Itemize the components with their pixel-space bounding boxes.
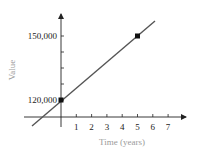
y-axis-title: Value bbox=[7, 60, 17, 81]
x-tick-label-7: 7 bbox=[166, 122, 171, 132]
x-tick-label-1: 1 bbox=[74, 122, 79, 132]
x-tick-label-2: 2 bbox=[89, 122, 94, 132]
data-point-year-0 bbox=[59, 98, 64, 103]
line-chart: 120,000 150,000 1 2 3 4 5 6 7 Time (year… bbox=[0, 0, 199, 154]
data-point-year-5 bbox=[135, 34, 140, 39]
x-tick-label-4: 4 bbox=[120, 122, 125, 132]
x-tick-label-3: 3 bbox=[105, 122, 110, 132]
x-tick-label-5: 5 bbox=[135, 122, 140, 132]
y-tick-label-120000: 120,000 bbox=[28, 95, 58, 105]
x-tick-label-6: 6 bbox=[151, 122, 156, 132]
y-tick-label-150000: 150,000 bbox=[28, 31, 58, 41]
x-axis-title: Time (years) bbox=[99, 137, 145, 147]
